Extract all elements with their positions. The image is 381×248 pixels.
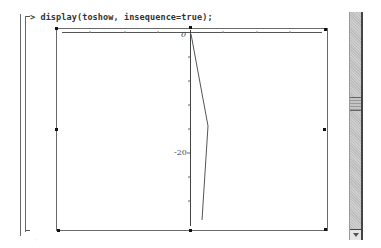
- y-tick-label-0: 0: [181, 30, 186, 39]
- scrollbar-thumb[interactable]: [350, 97, 361, 111]
- plot-canvas: [0, 0, 381, 248]
- y-tick-label-minus-20: -20: [174, 148, 187, 157]
- plot-curve: [191, 34, 208, 220]
- section-end-marker: · ·: [20, 236, 44, 243]
- y-axis-ticks: [187, 57, 190, 201]
- scroll-down-button[interactable]: [350, 229, 361, 240]
- vertical-scrollbar[interactable]: [349, 12, 363, 240]
- arrow-down-icon: [353, 233, 359, 237]
